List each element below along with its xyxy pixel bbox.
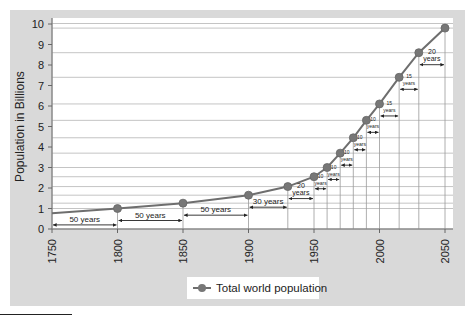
y-tick-label: 7 [38, 80, 44, 92]
data-point [114, 205, 122, 213]
x-tick-label: 1900 [243, 239, 255, 263]
interval-label: 50 years [69, 215, 100, 224]
interval-label: years [423, 55, 441, 63]
legend-marker-icon [198, 284, 206, 292]
interval-label: years [292, 189, 310, 197]
x-tick-label: 2050 [439, 239, 451, 263]
x-tick-label: 2000 [374, 239, 386, 263]
y-tick-label: 9 [38, 39, 44, 51]
interval-label: 10 [331, 164, 337, 170]
interval-label: 50 years [135, 211, 166, 220]
y-tick-label: 5 [38, 121, 44, 133]
interval-label: years [354, 141, 367, 147]
interval-label: 10 [370, 116, 376, 122]
y-tick-label: 0 [38, 223, 44, 235]
y-tick-label: 10 [32, 18, 44, 30]
y-tick-label: 1 [38, 203, 44, 215]
data-point [415, 49, 423, 57]
legend-label: Total world population [216, 282, 327, 294]
interval-label: 10 [357, 134, 363, 140]
interval-label: 20 [297, 182, 305, 189]
data-point [441, 24, 449, 32]
x-tick-label: 1950 [308, 239, 320, 263]
y-tick-label: 3 [38, 162, 44, 174]
y-tick-label: 4 [38, 141, 44, 153]
interval-label: years [403, 80, 416, 86]
x-tick-label: 1850 [177, 239, 189, 263]
footer-rule [0, 314, 72, 315]
y-tick-label: 2 [38, 182, 44, 194]
interval-label: years [328, 171, 341, 177]
legend: Total world population [187, 277, 327, 299]
interval-label: 20 [428, 48, 436, 55]
x-tick-label: 1800 [112, 239, 124, 263]
x-tick-label: 1750 [46, 239, 58, 263]
interval-label: 30 years [253, 197, 284, 206]
y-axis-label: Population in Billions [13, 71, 27, 182]
interval-label: 10 [344, 149, 350, 155]
interval-label: 15 [406, 73, 412, 79]
interval-label: years [367, 123, 380, 129]
interval-label: 50 years [200, 205, 231, 214]
interval-label: years [341, 156, 354, 162]
interval-label: years [314, 180, 327, 186]
interval-label: years [383, 107, 396, 113]
population-line-chart: 0123456789101750180018501900195020002050… [0, 0, 467, 316]
y-tick-label: 6 [38, 100, 44, 112]
interval-label: 10 [318, 173, 324, 179]
data-point [245, 191, 253, 199]
interval-label: 15 [387, 100, 393, 106]
y-tick-label: 8 [38, 59, 44, 71]
data-point [179, 199, 187, 207]
data-point [284, 183, 292, 191]
